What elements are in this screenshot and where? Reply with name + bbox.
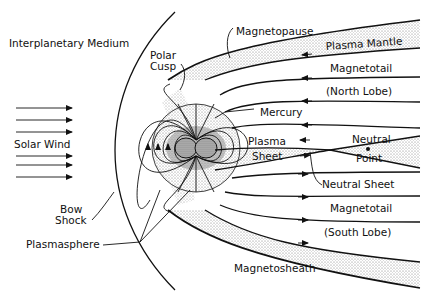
planet-mercury-right [195, 138, 217, 158]
leader-plasmasphere-2 [140, 190, 160, 242]
label-neutral-sheet: Neutral Sheet [322, 178, 394, 190]
label-polar-cusp-2: Cusp [150, 60, 176, 72]
label-plasma: Plasma [248, 135, 286, 147]
label-interplanetary-medium: Interplanetary Medium [9, 37, 129, 49]
tail-field-line-n3 [225, 101, 420, 112]
label-solar-wind: Solar Wind [14, 138, 70, 150]
leader-bow-shock [92, 192, 114, 220]
label-magnetotail-north-2: (North Lobe) [326, 85, 392, 97]
tail-field-line-n4 [232, 124, 420, 128]
label-sheet: Sheet [252, 150, 282, 162]
label-magnetosheath: Magnetosheath [234, 262, 316, 274]
label-magnetotail-south-2: (South Lobe) [324, 226, 391, 238]
label-mercury: Mercury [260, 106, 303, 118]
planet-mercury-left [175, 138, 197, 158]
mercury-magnetosphere-diagram: Interplanetary Medium Polar Cusp Magneto… [0, 0, 424, 291]
label-magnetotail-south-1: Magnetotail [330, 202, 392, 214]
leader-neutral-sheet [310, 152, 322, 185]
tail-field-line-s2 [225, 192, 420, 196]
label-neutral: Neutral [352, 133, 391, 145]
label-magnetotail-north-1: Magnetotail [330, 62, 392, 74]
label-neutral-point-2: Point [356, 152, 382, 164]
neutral-point-dot [366, 147, 370, 151]
label-plasmasphere: Plasmasphere [26, 238, 100, 250]
label-shock: Shock [55, 214, 88, 226]
label-magnetopause: Magnetopause [236, 25, 314, 37]
